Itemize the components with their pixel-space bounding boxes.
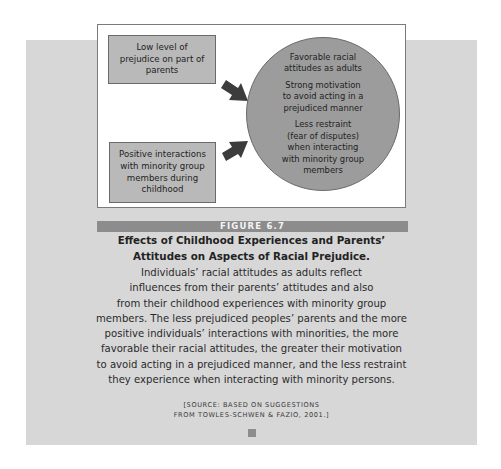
body-line: positive individuals’ interactions with … — [26, 326, 477, 341]
outcome-line: to avoid acting in a — [283, 91, 364, 103]
body-line: from their childhood experiences with mi… — [26, 296, 477, 311]
arrow-icon-top — [221, 80, 248, 101]
figure-label-bar: FIGURE 6.7 — [97, 221, 408, 232]
outcome-less-restraint: Less restraint (fear of disputes) when i… — [282, 119, 364, 177]
arrow-icon-bottom — [222, 141, 248, 161]
title-line: Effects of Childhood Experiences and Par… — [26, 233, 477, 249]
outcome-line: when interacting — [282, 142, 364, 154]
outcome-strong-motivation: Strong motivation to avoid acting in a p… — [283, 80, 364, 115]
outcome-line: Favorable racial — [284, 52, 362, 64]
body-line: members. The less prejudiced peoples’ pa… — [26, 311, 477, 326]
figure-source: [SOURCE: BASED ON SUGGESTIONS FROM TOWLE… — [26, 400, 477, 420]
body-line: to avoid acting in a prejudiced manner, … — [26, 357, 477, 372]
body-line: influences from their parents’ attitudes… — [26, 280, 477, 295]
outcome-line: Less restraint — [282, 119, 364, 131]
body-line: Individuals’ racial attitudes as adults … — [26, 265, 477, 280]
figure-description: Individuals’ racial attitudes as adults … — [26, 265, 477, 387]
title-line: Attitudes on Aspects of Racial Prejudice… — [26, 249, 477, 265]
outcome-line: Strong motivation — [283, 80, 364, 92]
source-line: FROM TOWLES-SCHWEN & FAZIO, 2001.] — [26, 410, 477, 420]
outcome-line: (fear of disputes) — [282, 131, 364, 143]
body-line: they experience when interacting with mi… — [26, 372, 477, 387]
outcome-line: prejudiced manner — [283, 103, 364, 115]
end-square-icon — [248, 429, 256, 437]
outcomes-circle: Favorable racial attitudes as adults Str… — [246, 37, 400, 191]
outcome-line: attitudes as adults — [284, 63, 362, 75]
outcome-favorable-attitudes: Favorable racial attitudes as adults — [284, 52, 362, 75]
diagram-frame: Low level of prejudice on part of parent… — [97, 24, 406, 208]
figure-title: Effects of Childhood Experiences and Par… — [26, 233, 477, 264]
source-line: [SOURCE: BASED ON SUGGESTIONS — [26, 400, 477, 410]
outcome-line: with minority group — [282, 154, 364, 166]
outcome-line: members — [282, 165, 364, 177]
body-line: favorable their racial attitudes, the gr… — [26, 341, 477, 356]
